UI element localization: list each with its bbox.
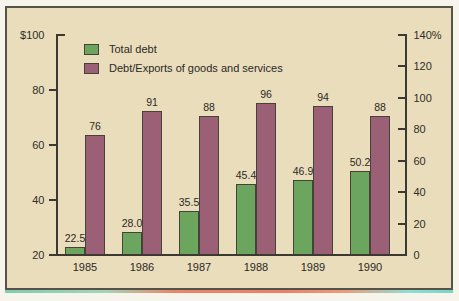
right-axis-label-120: 120 [414,60,458,72]
bar-value-total-debt-1989: 46.9 [283,165,323,177]
bar-debt-exports-1986 [142,111,162,254]
bar-value-total-debt-1985: 22.5 [55,232,95,244]
bar-debt-exports-1989 [313,106,333,254]
bar-value-total-debt-1990: 50.2 [340,156,380,168]
left-axis-label-20: 20 [0,249,45,261]
right-axis-label-20: 20 [414,218,458,230]
legend: Total debt Debt/Exports of goods and ser… [84,43,283,81]
right-axis-line [405,34,407,256]
bar-debt-exports-1987 [199,116,219,254]
left-axis-label-100: $100 [0,29,45,41]
legend-swatch-total-debt [84,44,99,55]
legend-item-debt-exports: Debt/Exports of goods and services [84,62,283,74]
legend-label-debt-exports: Debt/Exports of goods and services [109,62,283,74]
left-axis-tick-60 [49,144,56,146]
left-axis-tick-100 [58,34,65,36]
bar-value-debt-exports-1987: 88 [189,101,229,113]
right-axis-label-100: 100 [414,92,458,104]
x-tick-label-1987: 1987 [174,261,224,273]
left-axis-tick-80 [49,89,56,91]
bar-value-total-debt-1988: 45.4 [226,169,266,181]
bar-value-debt-exports-1990: 88 [360,101,400,113]
right-axis-tick-0 [398,254,405,256]
bar-value-total-debt-1987: 35.5 [169,196,209,208]
baseline [56,254,407,256]
bar-value-debt-exports-1986: 91 [132,96,172,108]
left-axis-label-80: 80 [0,84,45,96]
x-tick-label-1990: 1990 [345,261,395,273]
left-axis-label-60: 60 [0,139,45,151]
bar-value-debt-exports-1988: 96 [246,88,286,100]
bar-total-debt-1985 [65,247,85,254]
x-tick-label-1988: 1988 [231,261,281,273]
bar-total-debt-1989 [293,180,313,254]
right-axis-tick-60 [398,160,405,162]
bar-total-debt-1990 [350,171,370,254]
right-axis-tick-140 [398,34,405,36]
right-axis-tick-20 [398,223,405,225]
scan-color-fringe [5,290,453,293]
bar-total-debt-1987 [179,211,199,254]
left-axis-tick-20 [49,254,56,256]
right-axis-tick-100 [398,97,405,99]
scanned-figure-page: { "figure": { "panel_background": "#e9dd… [0,0,459,301]
right-axis-label-80: 80 [414,123,458,135]
bar-total-debt-1988 [236,184,256,254]
right-axis-label-40: 40 [414,186,458,198]
right-axis-tick-40 [398,191,405,193]
bar-total-debt-1986 [122,232,142,254]
chart-panel: Total debt Debt/Exports of goods and ser… [5,6,453,290]
right-axis-tick-80 [398,128,405,130]
right-axis-label-0: 0 [414,249,458,261]
bar-debt-exports-1990 [370,116,390,254]
right-axis-label-60: 60 [414,155,458,167]
left-axis-line [56,34,58,256]
left-axis-label-40: 40 [0,194,45,206]
right-axis-label-140: 140% [414,29,458,41]
left-axis-tick-40 [49,199,56,201]
x-tick-label-1985: 1985 [60,261,110,273]
bar-value-debt-exports-1989: 94 [303,91,343,103]
right-axis-tick-120 [398,65,405,67]
legend-item-total-debt: Total debt [84,43,283,55]
bar-value-debt-exports-1985: 76 [75,120,115,132]
legend-label-total-debt: Total debt [109,43,157,55]
legend-swatch-debt-exports [84,63,99,74]
bar-value-total-debt-1986: 28.0 [112,217,152,229]
bar-chart: Total debt Debt/Exports of goods and ser… [7,8,451,288]
x-tick-label-1989: 1989 [288,261,338,273]
x-tick-label-1986: 1986 [117,261,167,273]
